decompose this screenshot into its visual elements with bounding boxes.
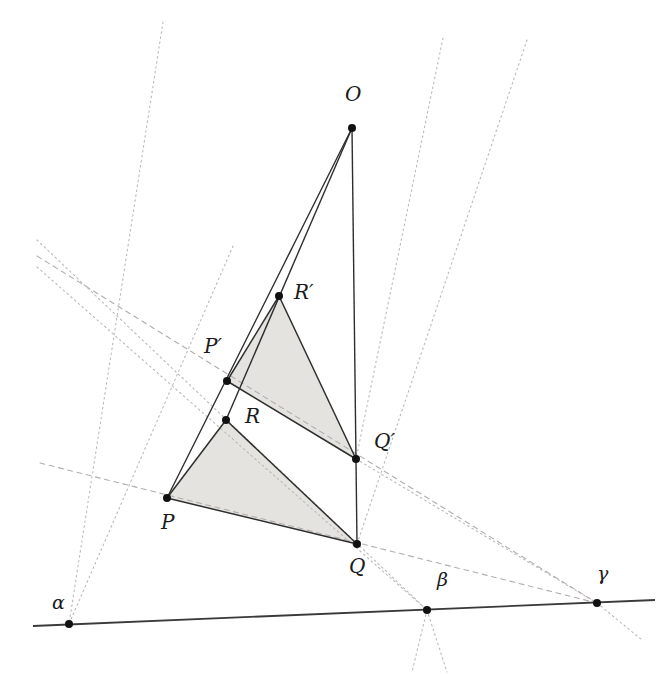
label-alpha: α [52, 593, 65, 612]
point-O [348, 124, 356, 132]
point-R [222, 416, 230, 424]
point-Pprime [223, 377, 231, 385]
guide-line-upper-right-2 [357, 40, 527, 544]
line-beta-below-axis-a [427, 610, 447, 672]
line-R-P-to-alpha [69, 246, 233, 624]
point-alpha [65, 620, 73, 628]
line-P-Q-to-gamma [40, 463, 597, 603]
axis-of-perspectivity [33, 600, 655, 626]
line-gamma-below-axis [597, 603, 642, 640]
desargues-figure: O P Q R P′ Q′ R′ α β γ [0, 0, 663, 674]
label-beta: β [437, 570, 448, 589]
line-Rprime-Pprime-to-alpha [69, 22, 163, 624]
desargues-axis-line [33, 600, 655, 626]
point-P [163, 494, 171, 502]
line-Qprime-to-gamma [356, 459, 597, 603]
label-Q: Q [349, 556, 365, 576]
point-Q [353, 540, 361, 548]
guide-line-upper-right-1 [356, 38, 443, 459]
label-Rprime: R′ [294, 282, 314, 302]
point-beta [423, 606, 431, 614]
ray-O-to-Q [352, 128, 357, 544]
label-R: R [245, 406, 260, 426]
point-Rprime [275, 292, 283, 300]
line-beta-below-axis-b [412, 610, 427, 672]
point-Qprime [352, 455, 360, 463]
label-Pprime: P′ [204, 336, 222, 356]
triangle-PpQpRp-fill [227, 296, 356, 459]
label-Qprime: Q′ [374, 431, 395, 451]
label-gamma: γ [597, 564, 608, 583]
point-markers [65, 124, 601, 628]
line-Q-R-to-beta [37, 267, 427, 610]
label-P: P [161, 512, 174, 532]
ray-O-to-P [167, 128, 352, 498]
label-O: O [345, 84, 361, 104]
figure-canvas [0, 0, 663, 674]
point-gamma [593, 599, 601, 607]
dotted-extension-lines [37, 22, 642, 672]
